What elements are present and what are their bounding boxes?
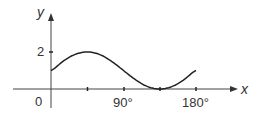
x-axis-label: x xyxy=(241,82,248,96)
y-axis-arrow-icon xyxy=(48,13,54,21)
x-axis-arrow-icon xyxy=(230,86,238,92)
x-tick-label-180: 180° xyxy=(182,96,209,109)
origin-label: 0 xyxy=(35,95,42,108)
y-axis-label: y xyxy=(37,5,44,19)
x-tick-label-90: 90° xyxy=(113,96,133,109)
y-tick-label-2: 2 xyxy=(37,45,44,58)
sine-curve xyxy=(51,52,196,89)
